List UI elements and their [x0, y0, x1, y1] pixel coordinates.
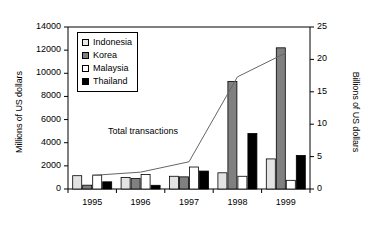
bar-thailand-1999: [296, 155, 305, 189]
bar-korea-1995: [83, 185, 92, 189]
legend-item-korea: Korea: [82, 49, 132, 62]
y-axis-right-tick-label: 25: [317, 21, 327, 31]
legend-label: Korea: [93, 51, 117, 60]
legend-swatch-korea-icon: [82, 52, 89, 59]
y-axis-left-tick-label: 6000: [0, 114, 61, 124]
total-transactions-annotation: Total transactions: [108, 126, 178, 136]
legend-item-indonesia: Indonesia: [82, 36, 132, 49]
chart-legend: IndonesiaKoreaMalaysiaThailand: [77, 32, 138, 92]
legend-item-thailand: Thailand: [82, 75, 132, 88]
bar-malaysia-1997: [190, 167, 199, 189]
bar-korea-1998: [228, 81, 237, 189]
bar-indonesia-1997: [170, 176, 179, 189]
y-axis-right-tick-label: 15: [317, 86, 327, 96]
y-axis-left-tick-label: 12000: [0, 44, 61, 54]
legend-swatch-indonesia-icon: [82, 39, 89, 46]
y-axis-right-tick-label: 20: [317, 53, 327, 63]
bar-korea-1997: [180, 177, 189, 189]
bar-thailand-1995: [103, 182, 112, 189]
bar-malaysia-1996: [141, 175, 150, 189]
bar-korea-1999: [276, 48, 285, 189]
bar-malaysia-1999: [286, 180, 295, 189]
y-axis-right-tick-label: 5: [317, 151, 322, 161]
bar-thailand-1997: [200, 171, 209, 189]
legend-item-malaysia: Malaysia: [82, 62, 132, 75]
bar-malaysia-1998: [238, 176, 247, 189]
y-axis-left-tick-label: 8000: [0, 90, 61, 100]
legend-swatch-thailand-icon: [82, 78, 89, 85]
bar-indonesia-1998: [218, 173, 227, 189]
legend-label: Thailand: [93, 77, 128, 86]
legend-swatch-malaysia-icon: [82, 65, 89, 72]
bar-indonesia-1999: [266, 159, 275, 189]
legend-label: Malaysia: [93, 64, 129, 73]
bar-thailand-1996: [151, 185, 160, 189]
y-axis-right-tick-label: 10: [317, 118, 327, 128]
y-axis-right-tick-label: 0: [317, 183, 322, 193]
legend-label: Indonesia: [93, 38, 132, 47]
chart-container: Millions of US dollars Billions of US do…: [0, 0, 375, 232]
bar-indonesia-1996: [121, 177, 130, 189]
bar-malaysia-1995: [93, 175, 102, 189]
x-axis-tick-label: 1999: [256, 197, 316, 207]
y-axis-left-tick-label: 2000: [0, 160, 61, 170]
y-axis-left-tick-label: 4000: [0, 137, 61, 147]
bar-korea-1996: [131, 179, 140, 189]
y-axis-left-tick-label: 10000: [0, 67, 61, 77]
bar-thailand-1998: [248, 133, 257, 189]
y-axis-left-tick-label: 14000: [0, 21, 61, 31]
bar-indonesia-1995: [73, 176, 82, 189]
y-axis-left-tick-label: 0: [0, 183, 61, 193]
